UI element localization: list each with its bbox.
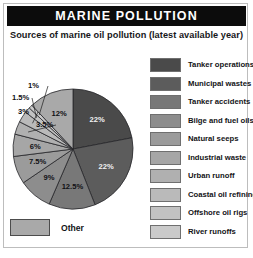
legend-swatch — [150, 58, 181, 72]
legend-label: Natural seeps — [188, 135, 238, 143]
legend-item[interactable]: Industrial waste — [150, 149, 248, 168]
legend-label: Offshore oil rigs — [188, 209, 247, 217]
legend-item[interactable]: Municipal wastes — [150, 75, 248, 94]
legend-item[interactable]: Bilge and fuel oils — [150, 112, 248, 131]
legend-label: Tanker operations — [188, 61, 253, 69]
pie-chart-svg: 22%22%12.5%9%7.5%6%3.5%3%1.5%1%12% — [6, 52, 138, 212]
legend-label: Coastal oil refining — [188, 191, 253, 199]
infographic-root: MARINE POLLUTION Sources of marine oil p… — [0, 0, 253, 258]
legend-label: Tanker accidents — [188, 98, 250, 106]
pie-slice-label: 3% — [18, 107, 29, 116]
legend-swatch — [150, 132, 181, 146]
legend-label: Municipal wastes — [188, 80, 251, 88]
legend: Tanker operationsMunicipal wastesTanker … — [150, 56, 248, 241]
other-legend-key: Other — [10, 219, 84, 236]
legend-swatch — [150, 206, 181, 220]
pie-slice-label: 9% — [43, 173, 54, 182]
legend-label: River runoffs — [188, 228, 236, 236]
legend-swatch — [150, 95, 181, 109]
legend-item[interactable]: Offshore oil rigs — [150, 204, 248, 223]
pie-slice-label: 7.5% — [29, 157, 47, 166]
pie-slice-label: 22% — [98, 162, 113, 171]
legend-swatch — [150, 151, 181, 165]
legend-item[interactable]: Coastal oil refining — [150, 186, 248, 205]
legend-swatch — [150, 114, 181, 128]
legend-item[interactable]: River runoffs — [150, 223, 248, 242]
legend-label: Urban runoff — [188, 172, 235, 180]
legend-swatch — [150, 225, 181, 239]
pie-slice-label: 1.5% — [12, 93, 30, 102]
legend-swatch — [150, 77, 181, 91]
pie-chart: 22%22%12.5%9%7.5%6%3.5%3%1.5%1%12% — [6, 52, 138, 212]
pie-slice-label: 22% — [89, 115, 104, 124]
legend-item[interactable]: Natural seeps — [150, 130, 248, 149]
pie-slice-label: 12% — [51, 109, 66, 118]
other-swatch — [10, 219, 50, 236]
pie-slice-label: 12.5% — [62, 182, 84, 191]
legend-item[interactable]: Tanker accidents — [150, 93, 248, 112]
legend-label: Industrial waste — [188, 154, 246, 162]
other-label: Other — [61, 223, 84, 233]
pie-slice-label: 6% — [30, 142, 41, 151]
pie-slice-label: 1% — [28, 81, 39, 90]
legend-swatch — [150, 169, 181, 183]
legend-label: Bilge and fuel oils — [188, 117, 253, 125]
legend-item[interactable]: Tanker operations — [150, 56, 248, 75]
page-title: MARINE POLLUTION — [55, 9, 198, 23]
title-bar: MARINE POLLUTION — [7, 6, 246, 26]
pie-slice-label: 3.5% — [36, 120, 54, 129]
chart-subtitle: Sources of marine oil pollution (latest … — [0, 30, 253, 40]
legend-swatch — [150, 188, 181, 202]
legend-item[interactable]: Urban runoff — [150, 167, 248, 186]
